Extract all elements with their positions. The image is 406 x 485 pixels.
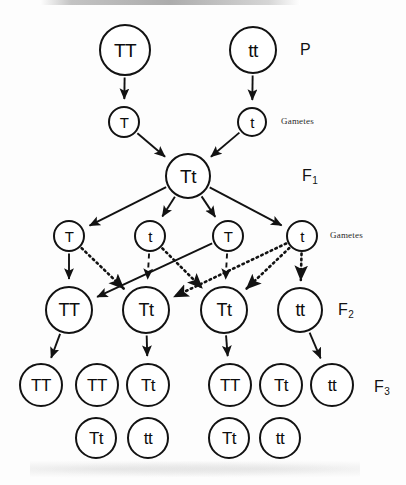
node-gamete-f1-t-4: t [286,220,318,252]
genotype-text: Tt [180,166,196,185]
gametes-label-f1: Gametes [330,230,363,240]
edge-g4-to-f2-4 [301,253,302,280]
node-gamete-f1-t-3: T [212,220,244,252]
node-f2-1: TT [45,286,93,334]
edge-g2-to-f2-3 [162,248,202,288]
genotype-text: Tt [89,429,103,446]
generation-subscript: 2 [348,309,354,320]
node-f3-3: Tt [126,363,170,407]
node-f3-5: Tt [259,363,303,407]
node-gamete-f1-t-1: T [53,220,85,252]
genotype-text: tt [328,376,336,393]
node-p-tt-dominant: TT [99,24,151,76]
edge-f1-to-gamete-4 [210,187,282,225]
generation-subscript: 1 [312,175,318,186]
node-f2-3: Tt [200,286,248,334]
f3-label: F3 [374,378,389,396]
node-f3-7: Tt [75,417,117,459]
genotype-text: t [250,114,254,129]
genotype-text: tt [248,40,258,59]
node-gamete-f1-t-2: t [134,220,166,252]
genotype-text: Tt [222,429,236,446]
f2-label: F2 [338,301,353,319]
genotype-text: Tt [274,376,288,393]
genotype-text: TT [59,301,80,319]
node-f3-8: tt [127,417,169,459]
edge-f2-2-to-f3-3 [147,335,148,356]
genotype-text: TT [87,376,107,393]
edge-f2-3-to-f3-4 [226,335,228,356]
genotype-text: Tt [217,301,232,319]
edge-g1-to-f2-2 [82,248,124,288]
f1-label: F1 [302,167,317,185]
genotype-text: tt [295,301,304,319]
genotype-text: TT [114,40,136,59]
edge-g3-to-f2-3 [226,253,227,279]
generation-subscript: 3 [384,386,390,397]
edge-f1-to-gamete-3 [202,196,216,216]
node-f1-tt: Tt [165,153,211,199]
genotype-text: T [65,228,74,243]
node-f2-4: tt [277,287,323,333]
genotype-text: T [224,228,233,243]
genotype-text: Tt [139,301,154,319]
node-f3-1: TT [19,363,63,407]
edge-gamete-t-to-f1 [137,133,165,156]
genotype-text: tt [144,429,152,446]
node-f3-9: Tt [208,417,250,459]
genotype-text: tt [276,429,284,446]
edge-g2-to-f2-2 [148,253,149,279]
gametes-label-p: Gametes [281,116,314,126]
generation-letter: F [374,378,384,395]
genotype-text: Tt [141,376,155,393]
edge-g4-to-f2-3 [246,248,289,289]
genetics-pedigree-diagram: TTttTtTtTtTtTTTtTtttTTTTTtTTTtttTtttTttt… [0,0,406,485]
genotype-text: t [300,228,304,243]
genotype-text: TT [31,376,51,393]
edge-gamete-t2-to-f1 [211,133,239,157]
node-f3-4: TT [208,363,252,407]
node-f3-6: tt [310,363,354,407]
edge-f1-to-gamete-2 [162,197,175,217]
edge-f2-1-to-f3-1 [51,334,60,358]
node-gamete-p-t-dom: T [108,106,140,138]
p-label: P [300,41,311,59]
node-f2-2: Tt [122,286,170,334]
generation-letter: F [302,167,312,184]
genotype-text: TT [220,376,240,393]
genotype-text: T [120,114,129,129]
node-f3-2: TT [75,363,119,407]
node-p-tt-recessive: tt [229,26,277,74]
generation-letter: P [300,41,311,58]
node-f3-10: tt [259,417,301,459]
genotype-text: t [148,228,152,243]
node-gamete-p-t-rec: t [237,107,267,137]
edge-f2-4-to-f3-6 [310,333,321,359]
generation-letter: F [338,301,348,318]
